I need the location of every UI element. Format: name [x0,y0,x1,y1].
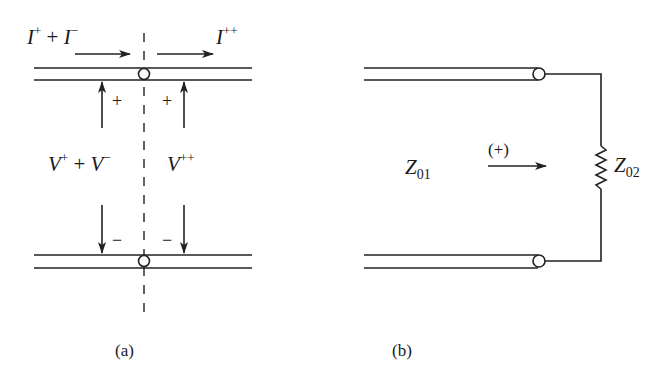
incident-reflected-voltage-label: V+ + V− [48,150,111,176]
right-plus-sign: + [162,91,172,111]
panel-b: Z01 Z02 (+) (b) [364,68,640,360]
top-terminal-node [533,68,545,80]
load-impedance-label: Z02 [614,153,640,180]
load-wire-top [545,74,601,146]
right-minus-sign: − [162,230,172,250]
left-minus-sign: − [112,230,122,250]
direction-label: (+) [488,140,509,159]
top-junction-node [139,69,150,80]
left-plus-sign: + [112,91,122,111]
line-impedance-label: Z01 [405,155,431,182]
panel-a: I+ + I− I++ + + − − V+ + V− V++ (a) [26,23,252,360]
bottom-junction-node [139,256,150,267]
incident-reflected-current-label: I+ + I− [26,23,78,49]
caption-b: (b) [392,341,412,360]
bottom-terminal-node [533,255,545,267]
load-resistor-zigzag [596,146,606,189]
transmission-line-diagram: I+ + I− I++ + + − − V+ + V− V++ (a) [0,0,656,386]
load-wire-bottom [545,189,601,261]
caption-a: (a) [115,341,134,360]
transmitted-current-label: I++ [215,23,238,49]
